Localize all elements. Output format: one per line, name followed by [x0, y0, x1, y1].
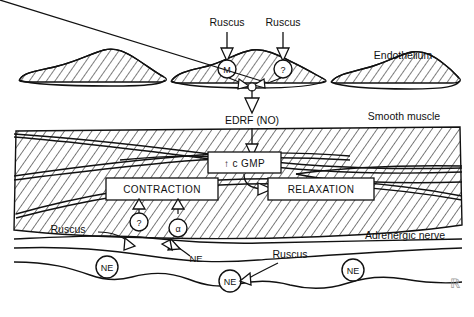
diagram-svg: Ruscus Ruscus M ?: [0, 0, 474, 317]
endothelial-cell-left: [19, 49, 166, 86]
smooth-muscle-label: Smooth muscle: [368, 110, 441, 122]
receptor-muscle-unknown[interactable]: ?: [130, 213, 148, 231]
ne-release-label: NE: [189, 253, 202, 264]
ne-vesicle-middle: NE: [219, 270, 241, 292]
edrf-label: EDRF (NO): [225, 114, 279, 126]
relaxation-label: RELAXATION: [288, 184, 355, 195]
relaxation-box: RELAXATION: [268, 178, 374, 200]
ruscus-mid-curve: [249, 263, 278, 278]
contraction-box: CONTRACTION: [106, 178, 218, 200]
receptor-alpha-label: α: [175, 224, 180, 234]
ruscus-left-arrowhead: [124, 238, 135, 250]
ruscus-label-nerve-left: Ruscus: [50, 223, 85, 235]
ne-vesicle-middle-label: NE: [224, 277, 237, 287]
endothelium-layer: Ruscus Ruscus M ?: [0, 0, 460, 113]
figure-canvas: Ruscus Ruscus M ?: [0, 0, 474, 317]
nerve-mid-edge: [14, 247, 462, 261]
receptor-endothelial-unknown[interactable]: ?: [274, 60, 292, 78]
endothelial-cell-middle: [171, 50, 326, 88]
ruscus-label-endothelium-left: Ruscus: [209, 16, 244, 28]
receptor-m[interactable]: M: [218, 60, 236, 78]
ne-vesicle-right-label: NE: [347, 266, 360, 276]
ne-vesicle-left: NE: [96, 256, 118, 278]
ne-vesicle-right: NE: [342, 259, 364, 281]
corner-mark: ℝ: [450, 276, 461, 291]
receptor-muscle-unknown-label: ?: [136, 218, 141, 228]
receptor-unknown-label: ?: [280, 65, 285, 75]
receptor-muscle-alpha[interactable]: α: [169, 219, 187, 237]
contraction-label: CONTRACTION: [123, 184, 201, 195]
ne-vesicle-left-label: NE: [101, 263, 114, 273]
adrenergic-nerve-label: Adrenergic nerve: [365, 229, 445, 241]
edrf-arrowhead-upper: [245, 98, 259, 113]
cgmp-label: ↑ c GMP: [224, 158, 265, 169]
endothelium-label: Endothelium: [374, 49, 433, 61]
smooth-muscle-layer: ↑ c GMP CONTRACTION RELAXATION: [14, 127, 462, 239]
cgmp-box: ↑ c GMP: [208, 152, 281, 173]
ruscus-label-endothelium-right: Ruscus: [265, 16, 300, 28]
ne-to-alpha-arrowhead-2: [162, 240, 172, 250]
ruscus-label-nerve-mid: Ruscus: [272, 248, 307, 260]
